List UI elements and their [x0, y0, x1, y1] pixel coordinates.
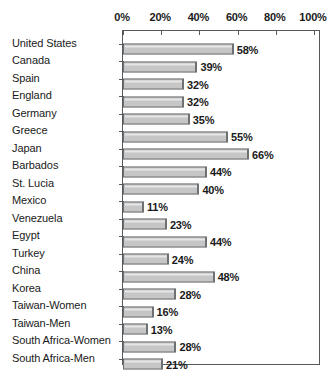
bar-value-label: 28% — [179, 288, 200, 300]
bar-value-label: 13% — [151, 323, 172, 335]
bar-highlight — [125, 343, 174, 345]
category-tick-mark — [119, 236, 124, 237]
bar-value-label: 24% — [172, 253, 193, 265]
category-tick-mark — [119, 79, 124, 80]
x-tick-label: 80% — [264, 11, 285, 23]
bar-value-label: 48% — [218, 271, 239, 283]
bar-highlight — [125, 186, 197, 188]
x-axis-tick-mark — [199, 30, 200, 35]
category-tick-mark — [119, 166, 124, 167]
bar-row: 66% — [123, 149, 321, 160]
bar-value-label: 58% — [237, 43, 258, 55]
x-tick-label: 40% — [188, 11, 209, 23]
bar-row: 24% — [123, 254, 321, 265]
bar-row: 35% — [123, 114, 321, 125]
bar-highlight — [125, 63, 195, 65]
bar — [123, 61, 197, 72]
bars-layer: 58%39%32%32%35%55%66%44%40%11%23%44%24%4… — [123, 31, 319, 364]
x-tick-label: 100% — [299, 11, 326, 23]
x-axis-tick-mark — [161, 30, 162, 35]
bar-row: 55% — [123, 131, 321, 142]
category-label: Japan — [12, 142, 41, 154]
bar-row: 32% — [123, 79, 321, 90]
bar-value-label: 66% — [252, 148, 273, 160]
bar-value-label: 44% — [210, 236, 231, 248]
category-label: Germany — [12, 107, 57, 119]
bar-row: 44% — [123, 236, 321, 247]
bar-highlight — [125, 326, 146, 328]
bar — [123, 114, 190, 125]
category-tick-mark — [119, 341, 124, 342]
bar-value-label: 21% — [166, 358, 187, 370]
bar-value-label: 44% — [210, 166, 231, 178]
bar — [123, 359, 163, 370]
bar — [123, 324, 148, 335]
x-tick-label: 0% — [114, 11, 130, 23]
bar — [123, 289, 176, 300]
bar-highlight — [125, 98, 182, 100]
bar-chart: 0%20%40%60%80%100% United StatesCanadaSp… — [0, 0, 334, 381]
bar — [123, 201, 144, 212]
category-tick-mark — [119, 359, 124, 360]
category-tick-mark — [119, 201, 124, 202]
bar-row: 21% — [123, 359, 321, 370]
bar — [123, 306, 154, 317]
bar — [123, 254, 169, 265]
plot-area: 58%39%32%32%35%55%66%44%40%11%23%44%24%4… — [122, 30, 320, 365]
bar-highlight — [125, 116, 188, 118]
bar-highlight — [125, 238, 205, 240]
bar — [123, 166, 207, 177]
bar-value-label: 28% — [179, 341, 200, 353]
bar-highlight — [125, 256, 167, 258]
category-label: Egypt — [12, 229, 40, 241]
bar-value-label: 32% — [187, 96, 208, 108]
category-label: St. Lucia — [12, 177, 54, 189]
bar-value-label: 23% — [170, 218, 191, 230]
category-tick-mark — [119, 271, 124, 272]
bar-row: 23% — [123, 219, 321, 230]
category-tick-mark — [119, 61, 124, 62]
bar-row: 13% — [123, 324, 321, 335]
bar-highlight — [125, 273, 213, 275]
bar-highlight — [125, 361, 161, 363]
category-tick-mark — [119, 289, 124, 290]
bar-value-label: 55% — [231, 131, 252, 143]
bar-value-label: 11% — [147, 201, 168, 213]
bar-highlight — [125, 291, 174, 293]
bar-value-label: 40% — [202, 183, 223, 195]
bar-row: 28% — [123, 341, 321, 352]
category-label: Mexico — [12, 194, 46, 206]
x-axis-tick-mark — [123, 30, 124, 35]
bar-highlight — [125, 221, 165, 223]
category-label: Taiwan-Women — [12, 299, 86, 311]
bar-highlight — [125, 133, 226, 135]
category-label: South Africa-Men — [12, 352, 95, 364]
category-tick-mark — [119, 131, 124, 132]
x-axis-tick-mark — [238, 30, 239, 35]
category-label: South Africa-Women — [12, 334, 111, 346]
category-label: Venezuela — [12, 212, 62, 224]
bar — [123, 44, 234, 55]
x-axis-tick-labels: 0%20%40%60%80%100% — [0, 11, 334, 27]
bar-row: 40% — [123, 184, 321, 195]
bar-row: 16% — [123, 306, 321, 317]
category-label: Canada — [12, 54, 50, 66]
bar-row: 48% — [123, 271, 321, 282]
bar — [123, 184, 199, 195]
category-label: China — [12, 264, 40, 276]
category-label: Spain — [12, 72, 40, 84]
category-label: Taiwan-Men — [12, 317, 70, 329]
category-label: Turkey — [12, 247, 45, 259]
category-axis-labels: United StatesCanadaSpainEnglandGermanyGr… — [0, 30, 120, 365]
category-tick-mark — [119, 114, 124, 115]
bar-highlight — [125, 308, 152, 310]
category-label: United States — [12, 37, 77, 49]
bar-highlight — [125, 46, 232, 48]
category-tick-mark — [119, 219, 124, 220]
bar — [123, 271, 215, 282]
bar — [123, 236, 207, 247]
bar-row: 58% — [123, 44, 321, 55]
bar-highlight — [125, 151, 247, 153]
x-tick-label: 60% — [226, 11, 247, 23]
category-label: Barbados — [12, 159, 58, 171]
